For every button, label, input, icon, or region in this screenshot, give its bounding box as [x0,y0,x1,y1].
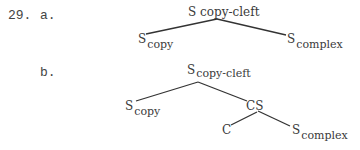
example-number: 29. [8,8,31,23]
edge-b-cs-right [258,111,290,126]
edge-a-root-right [217,19,286,35]
node-base: C [222,123,231,137]
node-base: S [125,99,133,113]
node-base: S [187,63,195,77]
edge-a-root-left [146,19,217,34]
tree-b-root-node: Scopy-cleft [187,64,251,76]
tree-a-right-node: Scomplex [287,33,343,45]
edge-b-root-cs [198,82,247,101]
node-base: S [292,123,300,137]
tree-a-left-node: Scopy [138,33,173,45]
node-subscript: copy-cleft [196,67,250,80]
tree-b-right-node: Scomplex [292,124,348,136]
node-base: CS [246,99,263,113]
node-subscript: copy [147,38,173,51]
tree-b-left-node: Scopy [125,100,160,112]
tree-b-c-node: C [222,124,231,136]
node-subscript: copy [134,105,160,118]
tree-a-root-node: S copy-cleft [188,6,259,18]
edge-b-root-left [136,82,198,101]
tree-b-cs-node: CS [246,100,263,112]
node-base: S [138,32,146,46]
sub-example-label-b: b. [40,65,56,80]
node-base: S [287,32,295,46]
node-base: S [188,5,196,19]
sub-example-label-a: a. [40,8,56,23]
node-annotation: copy-cleft [200,5,259,19]
node-subscript: complex [301,129,348,142]
node-subscript: complex [296,38,343,51]
edge-b-cs-c [231,112,257,125]
